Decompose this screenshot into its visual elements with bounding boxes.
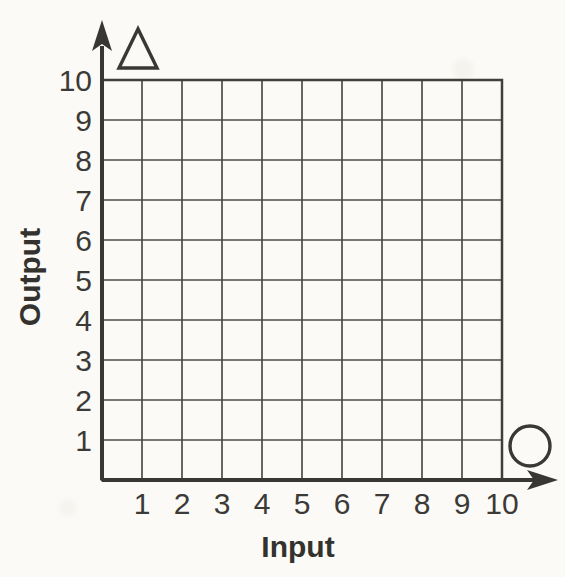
y-axis-tick-labels: 12345678910 — [59, 64, 92, 457]
y-tick-label: 6 — [75, 224, 92, 257]
x-tick-label: 5 — [294, 487, 311, 520]
y-tick-label: 8 — [75, 144, 92, 177]
triangle-icon — [119, 29, 157, 68]
x-tick-label: 6 — [334, 487, 351, 520]
y-tick-label: 5 — [75, 264, 92, 297]
y-tick-label: 1 — [75, 424, 92, 457]
y-tick-label: 3 — [75, 344, 92, 377]
circle-icon — [510, 426, 550, 466]
x-tick-label: 2 — [174, 487, 191, 520]
x-tick-label: 9 — [454, 487, 471, 520]
y-tick-label: 7 — [75, 184, 92, 217]
x-tick-label: 1 — [134, 487, 151, 520]
y-axis-label: Output — [13, 228, 46, 326]
y-tick-label: 2 — [75, 384, 92, 417]
grid — [102, 80, 502, 480]
x-axis-tick-labels: 12345678910 — [134, 487, 519, 520]
y-tick-label: 9 — [75, 104, 92, 137]
x-axis-label: Input — [261, 530, 334, 563]
x-tick-label: 8 — [414, 487, 431, 520]
x-tick-label: 3 — [214, 487, 231, 520]
x-tick-label: 4 — [254, 487, 271, 520]
input-output-grid-chart: 12345678910 12345678910 Output Input — [0, 0, 565, 577]
scanned-worksheet-page: 12345678910 12345678910 Output Input — [0, 0, 565, 577]
y-tick-label: 4 — [75, 304, 92, 337]
x-tick-label: 10 — [485, 487, 518, 520]
x-tick-label: 7 — [374, 487, 391, 520]
y-tick-label: 10 — [59, 64, 92, 97]
